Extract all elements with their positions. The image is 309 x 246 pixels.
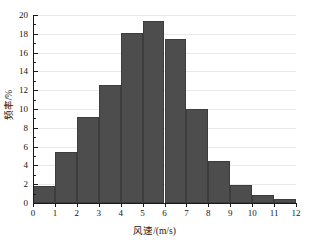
y-axis-title: 频率/% — [1, 75, 15, 135]
x-tick-label: 2 — [69, 208, 85, 218]
x-tick-major — [252, 203, 253, 207]
y-tick-label: 2 — [2, 180, 28, 189]
x-tick-major — [186, 203, 187, 207]
y-tick-major — [33, 165, 38, 166]
x-tick-major — [55, 203, 56, 207]
y-tick-minor — [33, 100, 36, 101]
y-tick-major — [33, 53, 38, 54]
x-tick-label: 12 — [288, 208, 304, 218]
x-tick-major — [296, 203, 297, 207]
x-tick-major — [33, 203, 34, 207]
x-tick-major — [77, 203, 78, 207]
x-tick-label: 11 — [266, 208, 282, 218]
y-tick-minor — [33, 24, 36, 25]
x-tick-major — [274, 203, 275, 207]
y-tick-label: 6 — [2, 143, 28, 152]
y-tick-minor — [33, 118, 36, 119]
y-tick-label: 20 — [2, 11, 28, 20]
y-tick-major — [33, 147, 38, 148]
y-tick-label: 0 — [2, 199, 28, 208]
y-tick-minor — [33, 43, 36, 44]
y-tick-minor — [33, 62, 36, 63]
histogram-bar — [165, 39, 187, 203]
y-tick-label: 4 — [2, 161, 28, 170]
x-tick-label: 8 — [200, 208, 216, 218]
x-tick-label: 9 — [222, 208, 238, 218]
x-tick-major — [143, 203, 144, 207]
histogram-bar — [77, 117, 99, 203]
y-tick-minor — [33, 194, 36, 195]
histogram-bar — [208, 161, 230, 203]
x-tick-label: 3 — [91, 208, 107, 218]
y-tick-minor — [33, 156, 36, 157]
plot-area — [33, 15, 296, 203]
y-tick-major — [33, 15, 38, 16]
x-tick-major — [208, 203, 209, 207]
x-tick-label: 1 — [47, 208, 63, 218]
bars-layer — [33, 15, 296, 203]
x-axis-title: 风速/(m/s) — [0, 223, 309, 237]
wind-speed-frequency-histogram: 02468101214161820 0123456789101112 风速/(m… — [0, 0, 309, 246]
y-tick-major — [33, 184, 38, 185]
x-tick-major — [121, 203, 122, 207]
y-tick-major — [33, 109, 38, 110]
x-tick-label: 10 — [244, 208, 260, 218]
y-tick-minor — [33, 137, 36, 138]
x-tick-label: 7 — [178, 208, 194, 218]
x-tick-major — [230, 203, 231, 207]
histogram-bar — [230, 185, 252, 203]
y-tick-minor — [33, 175, 36, 176]
x-tick-label: 0 — [25, 208, 41, 218]
histogram-bar — [55, 152, 77, 203]
histogram-bar — [186, 109, 208, 203]
histogram-bar — [33, 186, 55, 203]
histogram-bar — [99, 85, 121, 203]
histogram-bar — [143, 21, 165, 203]
y-tick-label: 16 — [2, 49, 28, 58]
x-tick-label: 6 — [157, 208, 173, 218]
histogram-bar — [252, 195, 274, 203]
x-tick-label: 5 — [135, 208, 151, 218]
y-tick-major — [33, 90, 38, 91]
y-tick-minor — [33, 81, 36, 82]
x-tick-major — [165, 203, 166, 207]
x-tick-label: 4 — [113, 208, 129, 218]
x-tick-major — [99, 203, 100, 207]
y-tick-major — [33, 128, 38, 129]
histogram-bar — [121, 33, 143, 203]
y-tick-major — [33, 71, 38, 72]
y-tick-major — [33, 34, 38, 35]
y-tick-label: 18 — [2, 30, 28, 39]
